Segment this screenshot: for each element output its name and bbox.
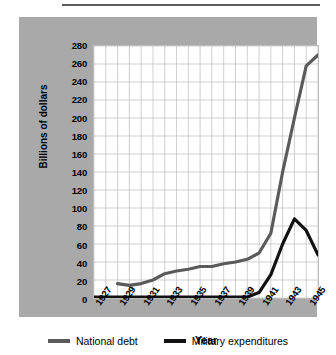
legend-item: Military expenditures <box>164 335 288 347</box>
plot-area <box>93 45 319 299</box>
y-axis-tick-labels: 020406080100120140160180200220240260280 <box>38 45 91 299</box>
y-tick-label: 200 <box>72 112 87 123</box>
y-tick-label: 20 <box>77 275 87 286</box>
y-tick-label: 120 <box>72 185 87 196</box>
chart-panel: Billions of dollars 02040608010012014016… <box>19 17 317 317</box>
y-tick-label: 260 <box>72 58 87 69</box>
y-tick-label: 80 <box>77 221 87 232</box>
top-divider-rule <box>62 4 320 6</box>
y-tick-label: 40 <box>77 257 87 268</box>
y-tick-label: 220 <box>72 94 87 105</box>
chart-legend: National debtMilitary expenditures <box>0 330 336 352</box>
y-tick-label: 240 <box>72 76 87 87</box>
y-tick-label: 0 <box>82 294 87 305</box>
legend-item: National debt <box>48 335 138 347</box>
legend-label: National debt <box>76 335 138 347</box>
legend-label: Military expenditures <box>192 335 288 347</box>
y-tick-label: 280 <box>72 40 87 51</box>
legend-swatch-icon <box>164 339 186 343</box>
y-tick-label: 100 <box>72 203 87 214</box>
data-series-layer <box>94 46 318 298</box>
y-tick-label: 180 <box>72 130 87 141</box>
y-tick-label: 160 <box>72 148 87 159</box>
legend-swatch-icon <box>48 339 70 343</box>
y-tick-label: 60 <box>77 239 87 250</box>
y-tick-label: 140 <box>72 167 87 178</box>
